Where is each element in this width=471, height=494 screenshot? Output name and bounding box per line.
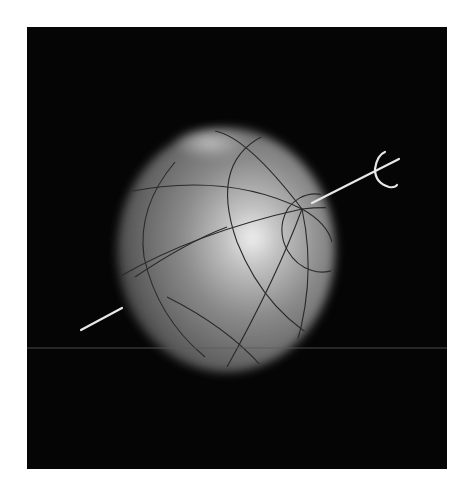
sphere-render [27, 27, 447, 469]
figure-panel [27, 27, 447, 469]
sphere [117, 127, 335, 372]
